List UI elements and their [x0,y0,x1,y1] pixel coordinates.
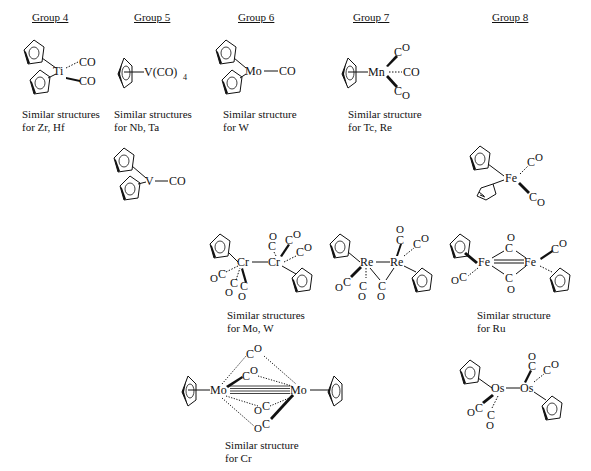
cpv-co4-structure: V(CO) 4 [118,58,187,88]
svg-text:Fe: Fe [478,255,490,269]
cp-os-co2-dimer-structure: Os Os C O C O C O C O [460,350,562,431]
svg-text:Os: Os [491,381,505,395]
cp2ti-co2-structure: Ti CO CO [24,40,96,94]
svg-text:C: C [505,241,513,255]
svg-text:Mo: Mo [210,383,227,397]
svg-text:Os: Os [520,381,534,395]
svg-text:O: O [396,223,404,235]
svg-text:O: O [451,274,459,286]
svg-text:O: O [250,364,258,376]
svg-text:O: O [421,232,429,244]
svg-text:Re: Re [390,255,403,269]
svg-text:C: C [543,363,551,377]
svg-text:O: O [358,290,366,302]
svg-text:O: O [507,231,515,243]
svg-text:C: C [394,84,402,98]
structures-canvas: Ti CO CO V(CO) 4 V CO Mo CO Mn C [0,0,591,471]
svg-text:O: O [254,404,262,416]
svg-text:V: V [145,174,154,188]
svg-text:O: O [528,350,536,362]
svg-text:C: C [246,347,254,361]
svg-text:C: C [262,417,270,431]
svg-text:C: C [262,399,270,413]
svg-text:C: C [218,267,226,281]
svg-text:C: C [475,401,483,415]
svg-text:Mo: Mo [245,64,262,78]
svg-text:O: O [402,89,410,101]
svg-text:O: O [335,281,343,293]
svg-text:O: O [238,290,246,302]
cp-mo-co2-dimer-structure: Mo Mo C O C O C O C O [182,342,342,434]
svg-text:CO: CO [79,55,96,69]
svg-text:O: O [537,196,545,208]
svg-text:Cr: Cr [237,255,249,269]
cp-cr-co3-dimer-structure: Cr Cr C O C O C O C O C O C O [210,228,312,302]
svg-text:CO: CO [79,74,96,88]
svg-text:C: C [296,245,304,259]
svg-text:C: C [529,190,537,204]
svg-text:4: 4 [183,73,187,82]
svg-text:C: C [394,45,402,59]
svg-text:O: O [225,286,233,298]
svg-text:Fe: Fe [505,171,517,185]
cp2-re2-co5-structure: Re Re C O C O C O C O C O [330,223,432,302]
cp2v-co-structure: V CO [114,148,186,200]
svg-text:CO: CO [279,64,296,78]
cpfe-co2-cp-structure: Fe C O C O [470,146,545,208]
svg-text:O: O [402,41,410,53]
svg-text:CO: CO [403,65,420,79]
cp2mo-co-structure: Mo CO [216,40,296,94]
svg-text:O: O [377,290,385,302]
svg-text:O: O [467,406,475,418]
svg-text:O: O [559,237,567,249]
svg-text:Ti: Ti [53,64,64,78]
svg-text:Cr: Cr [268,255,280,269]
svg-text:Fe: Fe [524,255,536,269]
svg-text:O: O [254,342,262,354]
cp-fe-co2-dimer-structure: Fe Fe C O C O C O C O [450,231,570,295]
svg-text:Mn: Mn [368,65,385,79]
svg-text:O: O [551,358,559,370]
svg-text:C: C [527,155,535,169]
svg-text:CO: CO [169,174,186,188]
svg-text:O: O [269,230,277,242]
svg-text:O: O [486,419,494,431]
cpmn-co3-structure: Mn C O CO C O [342,41,420,101]
svg-text:O: O [507,283,515,295]
svg-text:C: C [459,270,467,284]
svg-text:C: C [343,275,351,289]
svg-text:O: O [304,241,312,253]
svg-text:Re: Re [360,255,373,269]
svg-text:C: C [551,242,559,256]
svg-text:O: O [254,422,262,434]
svg-text:O: O [535,151,543,163]
svg-text:O: O [293,228,301,240]
svg-text:V(CO): V(CO) [144,65,177,79]
svg-text:C: C [413,237,421,251]
svg-text:C: C [285,233,293,247]
svg-text:O: O [210,272,218,284]
svg-text:C: C [396,233,404,247]
svg-text:C: C [242,369,250,383]
